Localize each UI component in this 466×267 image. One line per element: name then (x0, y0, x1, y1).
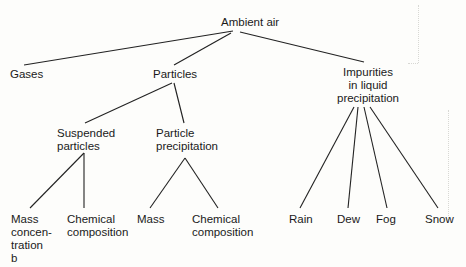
node-suspended-particles: Suspended particles (57, 127, 115, 153)
node-label-line: Chemical (192, 213, 253, 226)
node-label: Gases (10, 68, 43, 80)
node-label-line: concen- (11, 226, 52, 239)
node-label: Mass (137, 213, 164, 225)
edge-particles-suspended (85, 83, 172, 123)
scan-artifact (408, 63, 418, 64)
node-label-line: precipitation (330, 92, 406, 105)
edge-ambient-gases (24, 31, 233, 65)
node-chemical-composition-2: Chemical composition (192, 213, 253, 239)
node-label: Dew (337, 213, 360, 225)
node-particles: Particles (153, 68, 197, 81)
edge-particles-precipitation (174, 83, 184, 123)
node-label: Snow (425, 213, 454, 225)
node-label: Rain (289, 213, 313, 225)
node-label: Fog (376, 213, 396, 225)
node-label-line: Chemical (67, 213, 128, 226)
node-rain: Rain (289, 213, 313, 226)
node-particle-precipitation: Particle precipitation (156, 127, 218, 153)
edge-impurities-snow (370, 107, 438, 208)
node-label-line: in liquid (330, 79, 406, 92)
edge-impurities-fog (364, 107, 387, 208)
edge-precip-chemcomp (185, 158, 218, 208)
edge-impurities-dew (348, 107, 358, 208)
node-chemical-composition-1: Chemical composition (67, 213, 128, 239)
node-label: Ambient air (221, 16, 279, 28)
node-gases: Gases (10, 68, 43, 81)
edge-impurities-rain (300, 107, 354, 208)
node-label-line: Mass (11, 213, 52, 226)
edge-ambient-impurities (240, 32, 364, 62)
panel-label: b (11, 252, 17, 265)
node-label-line: composition (192, 226, 253, 239)
edge-precip-mass (150, 158, 185, 208)
node-mass-concentration: Mass concen- tration (11, 213, 52, 252)
scan-artifact (448, 110, 449, 220)
edge-ambient-particles (174, 33, 231, 65)
panel-label-text: b (11, 252, 17, 264)
node-label-line: tration (11, 239, 52, 252)
node-fog: Fog (376, 213, 396, 226)
node-label-line: Particle (156, 127, 218, 140)
node-dew: Dew (337, 213, 360, 226)
node-label-line: composition (67, 226, 128, 239)
node-ambient-air: Ambient air (221, 16, 279, 29)
node-label: Particles (153, 68, 197, 80)
node-snow: Snow (425, 213, 454, 226)
node-label-line: Impurities (330, 66, 406, 79)
node-label-line: precipitation (156, 140, 218, 153)
edge-suspended-massconc (30, 153, 84, 208)
node-mass: Mass (137, 213, 164, 226)
node-impurities: Impurities in liquid precipitation (330, 66, 406, 105)
node-label-line: particles (57, 140, 115, 153)
scan-artifact (418, 5, 419, 63)
node-label-line: Suspended (57, 127, 115, 140)
